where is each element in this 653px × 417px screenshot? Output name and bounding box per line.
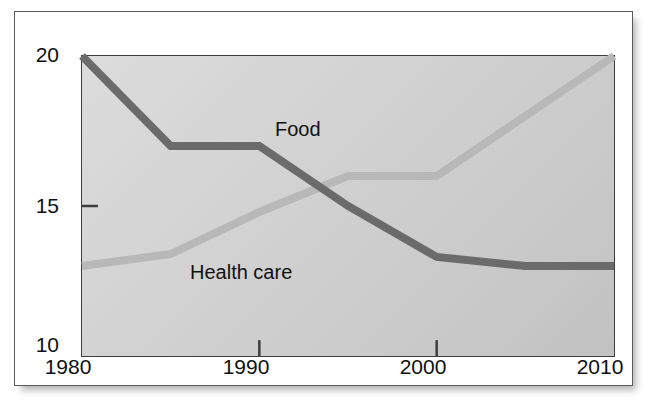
x-axis-tick-label-2000: 2000 [378,355,468,379]
series-lines-svg [82,56,614,356]
x-axis-tick-label-2010: 2010 [555,355,645,379]
series-line-health-care [82,56,614,266]
series-annotation-food: Food [275,118,321,141]
y-axis-tick-label-10: 10 [9,333,59,357]
y-axis-tick-label-20: 20 [9,43,59,67]
figure-title-cropped [0,0,653,4]
series-annotation-health-care: Health care [190,261,292,284]
plot-area: Food Health care [81,55,615,357]
x-axis-tick-label-1990: 1990 [201,355,291,379]
series-line-food [82,56,614,266]
x-axis-tick-label-1980: 1980 [23,355,113,379]
chart-figure: 20 15 10 1980 1990 2000 2010 Food Health [0,0,653,417]
y-axis-tick-label-15: 15 [9,194,59,218]
chart-outer-frame: 20 15 10 1980 1990 2000 2010 Food Health [14,11,633,386]
